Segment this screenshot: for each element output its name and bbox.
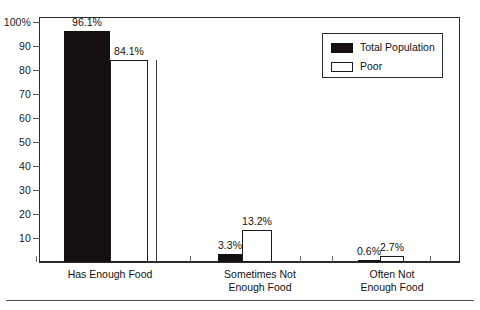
bar-poor: [380, 256, 404, 262]
bar-value-label: 96.1%: [62, 17, 112, 28]
bar-value-label: 13.2%: [232, 216, 282, 227]
x-axis-category-label: Has Enough Food: [40, 268, 180, 281]
x-axis-group-separator: [36, 256, 37, 262]
y-axis-tick: [33, 190, 40, 191]
legend-item-total-population: Total Population: [331, 41, 435, 54]
y-axis-tick: [33, 22, 40, 23]
x-axis-group-separator: [190, 256, 191, 262]
group-boundary-line: [156, 60, 157, 262]
y-axis-tick: [33, 118, 40, 119]
bar-chart-figure: 100%908070605040302010 96.1%84.1%Has Eno…: [0, 0, 480, 310]
x-axis-category-label: Often Not Enough Food: [322, 268, 462, 294]
x-axis-group-separator: [430, 256, 431, 262]
y-axis-tick: [33, 214, 40, 215]
y-axis-tick: [33, 46, 40, 47]
bar-value-label: 2.7%: [367, 242, 417, 253]
y-axis-tick: [33, 238, 40, 239]
y-axis-tick: [33, 94, 40, 95]
legend-label-poor: Poor: [360, 61, 382, 72]
bar-poor: [110, 60, 148, 262]
bar-value-label: 84.1%: [104, 46, 154, 57]
x-axis-group-separator: [332, 256, 333, 262]
legend-swatch-poor-icon: [331, 62, 353, 72]
bar-total-population: [218, 254, 242, 262]
bar-total-population: [358, 260, 380, 262]
chart-legend: Total Population Poor: [322, 33, 443, 78]
bottom-divider-rule: [6, 300, 474, 301]
x-axis-category-label: Sometimes Not Enough Food: [190, 268, 330, 294]
bar-poor: [242, 230, 272, 262]
legend-item-poor: Poor: [331, 60, 382, 73]
legend-label-total-population: Total Population: [360, 42, 435, 53]
y-axis-tick: [33, 142, 40, 143]
legend-swatch-total-population-icon: [331, 43, 353, 53]
bar-total-population: [64, 31, 110, 262]
x-axis-group-separator: [300, 256, 301, 262]
y-axis-tick: [33, 166, 40, 167]
y-axis-tick: [33, 70, 40, 71]
